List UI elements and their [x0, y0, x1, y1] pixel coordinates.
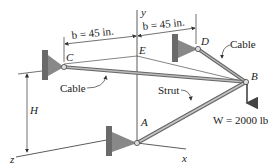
- z-axis: [16, 139, 112, 157]
- label-cable-right: Cable: [230, 38, 256, 50]
- label-h: H: [29, 104, 39, 116]
- label-b-right: b = 45 in.: [142, 16, 186, 32]
- label-cable-left: Cable: [60, 82, 86, 94]
- leader-cable-right: [222, 45, 230, 58]
- label-c: C: [66, 51, 74, 63]
- label-x: x: [181, 152, 187, 164]
- label-e: E: [138, 44, 146, 56]
- label-a: A: [140, 116, 148, 128]
- ref-line-ce: [64, 56, 137, 64]
- label-z: z: [9, 153, 15, 165]
- label-d: D: [200, 35, 209, 47]
- leader-strut: [181, 90, 191, 100]
- label-load: W = 2000 lb: [213, 114, 269, 126]
- structure-diagram: y x z C E D B A H b = 45 in. b = 45 in. …: [0, 0, 280, 166]
- label-b: B: [251, 70, 258, 82]
- label-strut: Strut: [158, 84, 179, 96]
- x-axis: [137, 143, 186, 149]
- bracket-c: [42, 50, 67, 80]
- label-y: y: [140, 6, 146, 18]
- leader-cable-left: [87, 76, 106, 88]
- bracket-a: [106, 126, 140, 156]
- joint-b: [243, 79, 248, 84]
- label-b-left: b = 45 in.: [71, 25, 115, 41]
